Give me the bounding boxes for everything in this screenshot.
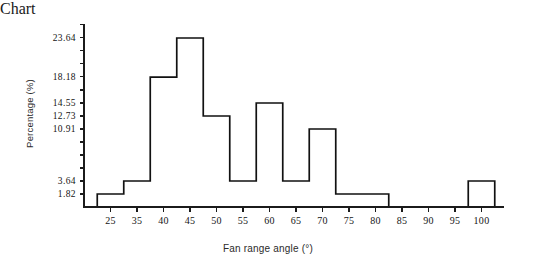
x-tick-label: 65 xyxy=(291,215,302,226)
y-tick-label: 1.82 xyxy=(58,189,76,199)
x-tick-label: 60 xyxy=(264,215,275,226)
x-tick-label: 55 xyxy=(238,215,249,226)
x-tick-label: 25 xyxy=(105,215,116,226)
x-tick-label: 40 xyxy=(158,215,169,226)
x-tick-label: 70 xyxy=(317,215,328,226)
x-tick-label: 95 xyxy=(450,215,461,226)
y-tick-label: 23.64 xyxy=(53,33,76,43)
axis-spine xyxy=(84,24,504,207)
x-tick-label: 90 xyxy=(423,215,434,226)
histogram-outline xyxy=(97,38,495,207)
chart-figure: Percentage (%) Fan range angle (°) 1.823… xyxy=(0,0,536,276)
y-tick-labels: 1.823.6410.9112.7314.5518.1823.64 xyxy=(53,33,76,199)
y-tick-label: 18.18 xyxy=(53,72,76,82)
x-tick-label: 35 xyxy=(132,215,143,226)
y-tick-label: 12.73 xyxy=(53,111,76,121)
x-tick-label: 85 xyxy=(397,215,408,226)
axis-lines xyxy=(84,24,504,207)
y-tick-label: 3.64 xyxy=(58,176,76,186)
x-tick-label: 45 xyxy=(185,215,196,226)
y-tick-label: 10.91 xyxy=(53,124,76,134)
plot-area: 1.823.6410.9112.7314.5518.1823.64 253540… xyxy=(0,0,536,276)
bar-series xyxy=(97,38,495,207)
y-tick-label: 14.55 xyxy=(53,98,76,108)
x-tick-label: 100 xyxy=(474,215,490,226)
x-tick-labels: 2535404550556065707580859095100 xyxy=(105,215,489,226)
x-tick-label: 80 xyxy=(370,215,381,226)
x-tick-label: 75 xyxy=(344,215,355,226)
histogram-svg: 1.823.6410.9112.7314.5518.1823.64 253540… xyxy=(0,0,536,276)
x-tick-label: 50 xyxy=(211,215,222,226)
